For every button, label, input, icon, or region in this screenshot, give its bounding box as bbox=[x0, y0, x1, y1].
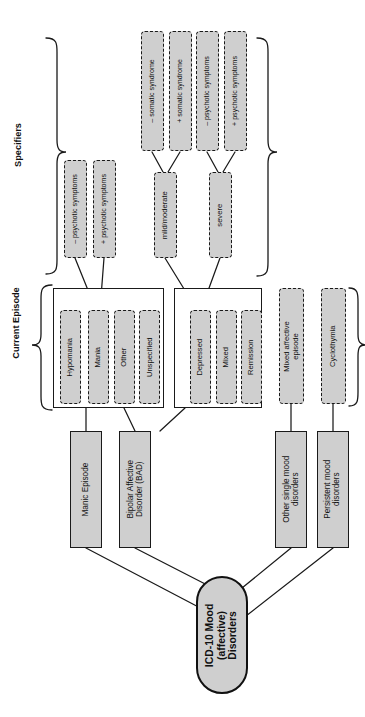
episode-hypomania[interactable]: Hypomania bbox=[60, 310, 81, 404]
disorder-persistent-mood-disorders[interactable]: Persistent mood disorders bbox=[317, 431, 349, 548]
episode-cyclothymia[interactable]: Cyclothymia bbox=[321, 288, 346, 404]
specifier-minus-psychotic-symptoms-depression[interactable]: – psychotic symptoms bbox=[196, 31, 219, 151]
specifier-minus-psychotic-symptoms-mania[interactable]: – psychotic symptoms bbox=[64, 160, 87, 258]
group-label-current-episode: Current Episode bbox=[0, 318, 56, 328]
episode-mania[interactable]: Mania bbox=[88, 310, 109, 404]
episode-mixed[interactable]: Mixed bbox=[216, 310, 237, 404]
specifier-plus-somatic-syndrome[interactable]: + somatic syndrome bbox=[169, 31, 192, 151]
specifier-minus-somatic-syndrome[interactable]: – somatic syndrome bbox=[141, 31, 164, 151]
episode-depressed[interactable]: Depressed bbox=[190, 310, 211, 404]
specifier-plus-psychotic-symptoms-mania[interactable]: + psychotic symptoms bbox=[93, 160, 116, 258]
disorder-bipolar-affective-disorder[interactable]: Bipolar Affective Disorder (BAD) bbox=[119, 431, 151, 548]
disorder-manic-episode[interactable]: Manic Episode bbox=[70, 431, 102, 548]
disorder-other-single-mood-disorders[interactable]: Other single mood disorders bbox=[275, 431, 307, 548]
episode-mixed-affective-episode[interactable]: Mixed affective episode bbox=[279, 288, 304, 404]
diagram-canvas: Specifiers Current Episode – somatic syn… bbox=[0, 0, 365, 717]
episode-other[interactable]: Other bbox=[114, 310, 135, 404]
specifier-mild-moderate[interactable]: mild/moderate bbox=[154, 172, 177, 258]
root-icd10-mood-disorders[interactable]: ICD-10 Mood (affective) Disorders bbox=[196, 576, 248, 694]
group-label-specifiers: Specifiers bbox=[0, 140, 48, 150]
episode-unspecified[interactable]: Unspecified bbox=[139, 310, 160, 404]
episode-remission[interactable]: Remission bbox=[241, 310, 262, 404]
specifier-severe[interactable]: severe bbox=[209, 172, 232, 258]
specifier-plus-psychotic-symptoms-depression[interactable]: + psychotic symptoms bbox=[224, 31, 247, 151]
